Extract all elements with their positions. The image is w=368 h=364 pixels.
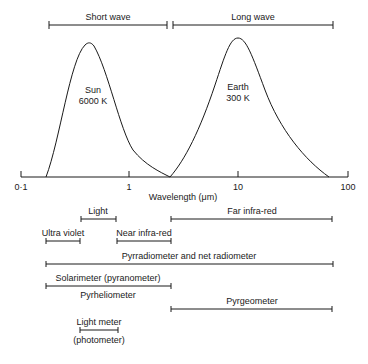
x-axis (21, 171, 348, 177)
short-wave-label: Short wave (85, 12, 130, 22)
ultraviolet-band (46, 238, 80, 244)
tick-label-1: 1 (126, 182, 131, 192)
short-wave-band (49, 21, 167, 29)
tick-label-100: 100 (340, 182, 355, 192)
photometer-label: (photometer) (73, 335, 125, 345)
light-meter-label: Light meter (76, 317, 121, 327)
pyrradiometer-band (46, 261, 333, 267)
earth-name-label: Earth (227, 82, 249, 92)
sun-name-label: Sun (85, 85, 101, 95)
long-wave-band (173, 21, 333, 29)
light-band (81, 216, 116, 222)
earth-curve (170, 38, 329, 177)
pyrheliometer-label: Pyrheliometer (80, 290, 136, 300)
pyrgeometer-band (171, 306, 332, 312)
ultraviolet-label: Ultra violet (42, 228, 85, 238)
spectrum-diagram: Short wave Long wave Sun 6000 K Earth 30… (0, 0, 368, 364)
tick-label-10: 10 (233, 182, 243, 192)
sun-temp-label: 6000 K (79, 96, 108, 106)
pyrgeometer-label: Pyrgeometer (226, 296, 278, 306)
far-infrared-label: Far infra-red (227, 206, 277, 216)
far-infrared-band (171, 216, 332, 222)
x-axis-label: Wavelength (μm) (149, 192, 217, 202)
near-infrared-band (117, 238, 171, 244)
light-label: Light (88, 206, 108, 216)
solarimeter-band (46, 283, 171, 289)
near-infrared-label: Near infra-red (116, 228, 172, 238)
pyrradiometer-label: Pyrradiometer and net radiometer (122, 251, 257, 261)
solarimeter-label: Solarimeter (pyranometer) (55, 273, 160, 283)
sun-curve (46, 43, 170, 177)
tick-label-0-1: 0·1 (14, 182, 27, 192)
light-meter-band (80, 327, 118, 333)
long-wave-label: Long wave (231, 12, 275, 22)
earth-temp-label: 300 K (226, 93, 250, 103)
